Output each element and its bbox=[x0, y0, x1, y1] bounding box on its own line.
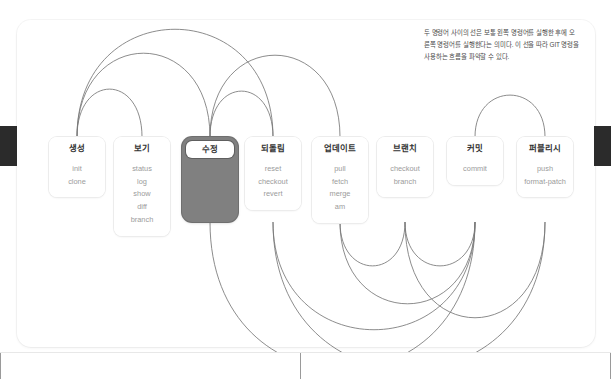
command-list-create: initclone bbox=[49, 159, 105, 197]
command-box-revert[interactable]: 되돌림resetcheckoutrevert bbox=[245, 137, 301, 210]
command-item: branch bbox=[116, 214, 168, 227]
command-item: status bbox=[116, 163, 168, 176]
strip-divider bbox=[300, 353, 301, 379]
diagram-screenshot: 두 명령어 사이의 선은 보통 왼쪽 명령어를 실행한 후에 오른쪽 명령어를 … bbox=[0, 0, 611, 379]
command-box-update[interactable]: 업데이트pullfetchmergeam bbox=[312, 137, 368, 223]
bottom-strip bbox=[0, 352, 611, 379]
command-item: merge bbox=[314, 188, 366, 201]
command-box-title-update: 업데이트 bbox=[312, 137, 368, 159]
command-box-title-publish: 퍼블리시 bbox=[517, 137, 573, 159]
command-item: reset bbox=[247, 163, 299, 176]
command-item: fetch bbox=[314, 176, 366, 189]
command-box-branch[interactable]: 브랜치checkoutbranch bbox=[377, 137, 433, 197]
command-item: diff bbox=[116, 201, 168, 214]
command-item: branch bbox=[379, 176, 431, 189]
command-boxes: 생성initclone보기statuslogshowdiffbranch수정되돌… bbox=[0, 0, 611, 379]
command-item: show bbox=[116, 188, 168, 201]
command-list-revert: resetcheckoutrevert bbox=[245, 159, 301, 210]
command-item: pull bbox=[314, 163, 366, 176]
command-box-modify[interactable]: 수정 bbox=[182, 137, 238, 222]
command-box-view[interactable]: 보기statuslogshowdiffbranch bbox=[114, 137, 170, 236]
command-list-view: statuslogshowdiffbranch bbox=[114, 159, 170, 236]
command-item: format-patch bbox=[519, 176, 571, 189]
command-box-commit[interactable]: 커밋commit bbox=[447, 137, 503, 185]
command-item: checkout bbox=[379, 163, 431, 176]
command-list-update: pullfetchmergeam bbox=[312, 159, 368, 223]
command-item: revert bbox=[247, 188, 299, 201]
command-list-commit: commit bbox=[447, 159, 503, 185]
command-item: checkout bbox=[247, 176, 299, 189]
command-item: log bbox=[116, 176, 168, 189]
command-box-publish[interactable]: 퍼블리시pushformat-patch bbox=[517, 137, 573, 197]
command-item: push bbox=[519, 163, 571, 176]
command-box-title-modify: 수정 bbox=[186, 141, 234, 158]
command-item: am bbox=[314, 201, 366, 214]
command-box-title-commit: 커밋 bbox=[447, 137, 503, 159]
command-list-modify bbox=[186, 158, 234, 171]
command-list-branch: checkoutbranch bbox=[377, 159, 433, 197]
command-box-title-create: 생성 bbox=[49, 137, 105, 159]
command-list-publish: pushformat-patch bbox=[517, 159, 573, 197]
command-box-title-revert: 되돌림 bbox=[245, 137, 301, 159]
command-box-title-view: 보기 bbox=[114, 137, 170, 159]
command-item: init bbox=[51, 163, 103, 176]
strip-divider bbox=[0, 353, 1, 379]
command-box-title-branch: 브랜치 bbox=[377, 137, 433, 159]
command-item: commit bbox=[449, 163, 501, 176]
command-item: clone bbox=[51, 176, 103, 189]
command-box-create[interactable]: 생성initclone bbox=[49, 137, 105, 197]
